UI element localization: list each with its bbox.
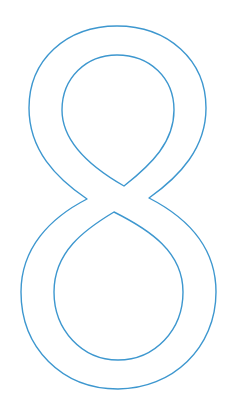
outer-contour: [21, 26, 216, 389]
digit-eight-icon: [0, 0, 236, 406]
digit-eight-outline-canvas: 8: [0, 0, 236, 406]
upper-counter: [62, 55, 174, 186]
lower-counter: [54, 212, 183, 360]
